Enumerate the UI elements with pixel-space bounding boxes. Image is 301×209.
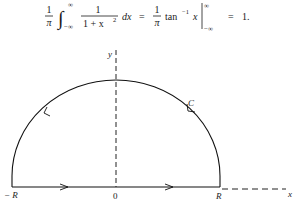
minus-r-label: − R [4,190,18,200]
contour-diagram: y x C − R 0 R [0,0,301,209]
x-axis-label: x [287,189,292,199]
r-label: R [215,191,222,201]
contour-label: C [188,98,195,108]
y-axis-label: y [107,49,112,59]
arrow-arc-icon [44,107,50,116]
origin-label: 0 [113,191,118,201]
